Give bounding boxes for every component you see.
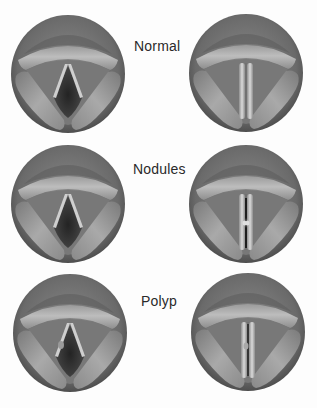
nodules-closed-view: [188, 144, 304, 264]
row-label-nodules: Nodules: [133, 161, 186, 177]
normal-open-view: [10, 14, 126, 134]
normal-closed-view: [188, 13, 304, 133]
polyp-open-view: [12, 273, 128, 393]
polyp-closed-view: [190, 272, 306, 392]
vocal-fold-figure: Normal Nodules Polyp: [0, 0, 317, 408]
nodules-open-view: [10, 144, 126, 264]
row-label-normal: Normal: [134, 38, 180, 54]
row-label-polyp: Polyp: [141, 293, 177, 309]
